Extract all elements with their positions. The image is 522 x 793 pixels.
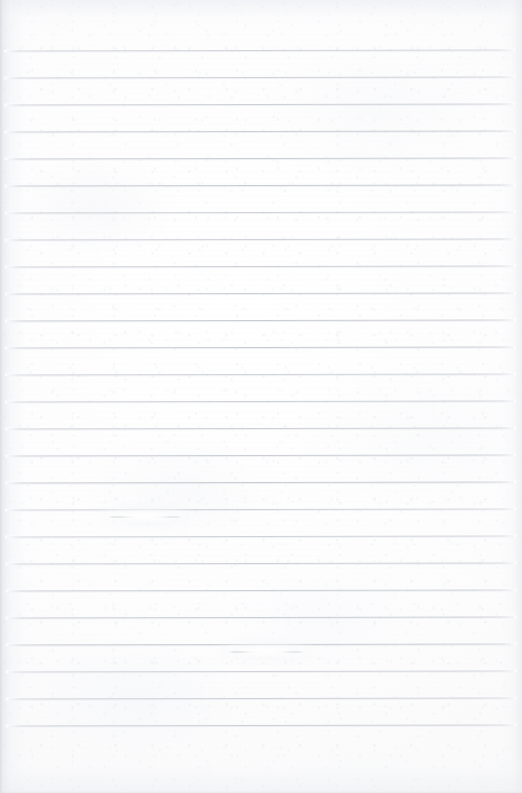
ruled-line-end-fade xyxy=(6,669,517,673)
ruled-line-end-fade xyxy=(5,426,516,430)
ruled-line-end-fade xyxy=(5,615,516,619)
ruled-line-end-fade xyxy=(5,318,516,322)
ruled-line-end-fade xyxy=(5,183,516,187)
ruled-line-end-fade xyxy=(5,534,516,538)
ruled-line-end-fade xyxy=(4,102,515,106)
ruled-line-end-fade xyxy=(4,156,515,160)
ruled-line-end-fade xyxy=(5,588,516,592)
ruled-line-end-fade xyxy=(6,696,517,700)
ruled-line-end-fade xyxy=(5,264,516,268)
ruled-line-end-fade xyxy=(6,723,517,727)
ruled-line-end-fade xyxy=(4,48,515,52)
ruled-line-end-fade xyxy=(5,561,516,565)
ruled-line-end-fade xyxy=(6,642,517,646)
ruled-line-end-fade xyxy=(5,372,516,376)
ruled-line-end-fade xyxy=(5,237,516,241)
ruled-line-end-fade xyxy=(5,480,516,484)
ruled-line-end-fade xyxy=(5,453,516,457)
ruled-line-end-fade xyxy=(5,507,516,511)
ruled-line-end-fade xyxy=(4,129,515,133)
ruled-lines-layer xyxy=(0,0,522,793)
ruled-line-end-fade xyxy=(4,75,515,79)
ruled-line-end-fade xyxy=(5,345,516,349)
ruled-line-end-fade xyxy=(5,210,516,214)
ruled-line-end-fade xyxy=(5,291,516,295)
page-edge-left xyxy=(0,0,3,793)
scanned-page xyxy=(0,0,522,793)
ruled-line-end-fade xyxy=(5,399,516,403)
